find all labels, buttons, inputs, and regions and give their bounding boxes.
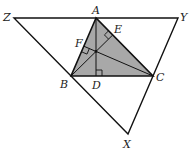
- orthocenter-dot: [95, 50, 98, 53]
- inner-triangle-abc: [71, 18, 153, 76]
- triangle-diagram: A B C D E F X Y Z: [0, 0, 194, 154]
- label-z: Z: [2, 11, 11, 24]
- label-a: A: [91, 4, 100, 17]
- label-f: F: [74, 37, 83, 50]
- label-b: B: [59, 78, 68, 91]
- label-e: E: [113, 23, 122, 36]
- label-d: D: [91, 79, 101, 92]
- label-y: Y: [180, 11, 189, 24]
- label-c: C: [156, 71, 165, 84]
- label-x: X: [122, 138, 132, 151]
